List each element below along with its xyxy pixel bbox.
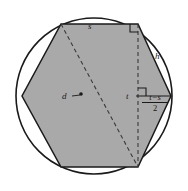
fraction-denominator: 2 (140, 103, 170, 113)
geometry-figure: s h d t t−s 2 (0, 0, 188, 191)
center-dot (79, 92, 83, 96)
label-slant-h: h (155, 52, 160, 61)
label-diagonal-d: d (62, 92, 67, 101)
label-half-width-t: t (126, 92, 129, 101)
fraction-numerator: t−s (140, 93, 170, 102)
label-side-s: s (88, 22, 92, 31)
fraction-t-minus-s-over-2: t−s 2 (140, 93, 170, 114)
